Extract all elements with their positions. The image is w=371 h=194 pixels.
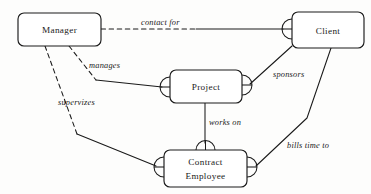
entity-manager-label: Manager (42, 25, 77, 35)
manages-solid-segment (96, 80, 162, 87)
crowsfoot-contract-left (154, 157, 164, 177)
entity-contract-employee-label-line1: Contract (188, 157, 223, 167)
er-diagram-canvas: Manager Client Project Contract Employee (0, 0, 371, 194)
crowsfoot-contract-top (196, 140, 215, 150)
relationship-label-bills-time-to: bills time to (287, 141, 329, 150)
supervizes-dashed-segment (45, 46, 77, 134)
diagram-svg: Manager Client Project Contract Employee (0, 0, 371, 194)
entity-contract-employee-label-line2: Employee (185, 171, 225, 181)
entity-client[interactable]: Client (292, 12, 364, 48)
entity-client-label: Client (316, 26, 341, 36)
entity-contract-employee-box (164, 150, 247, 187)
crowsfoot-client-left (282, 19, 292, 39)
entity-manager[interactable]: Manager (18, 13, 101, 46)
entity-contract-employee[interactable]: Contract Employee (164, 150, 247, 187)
relationship-label-sponsors: sponsors (273, 70, 304, 79)
crowsfoot-project-left (160, 77, 170, 97)
crowsfoot-contract-right (247, 157, 257, 177)
relationship-label-works-on: works on (209, 118, 241, 127)
relationship-label-manages: manages (89, 61, 120, 70)
entity-project[interactable]: Project (170, 70, 242, 103)
supervizes-solid-segment (77, 134, 156, 166)
relationship-label-supervizes: supervizes (58, 98, 95, 107)
entity-project-label: Project (192, 82, 221, 92)
relationship-label-contact-for: contact for (141, 18, 180, 27)
crowsfoot-project-right (242, 75, 252, 95)
